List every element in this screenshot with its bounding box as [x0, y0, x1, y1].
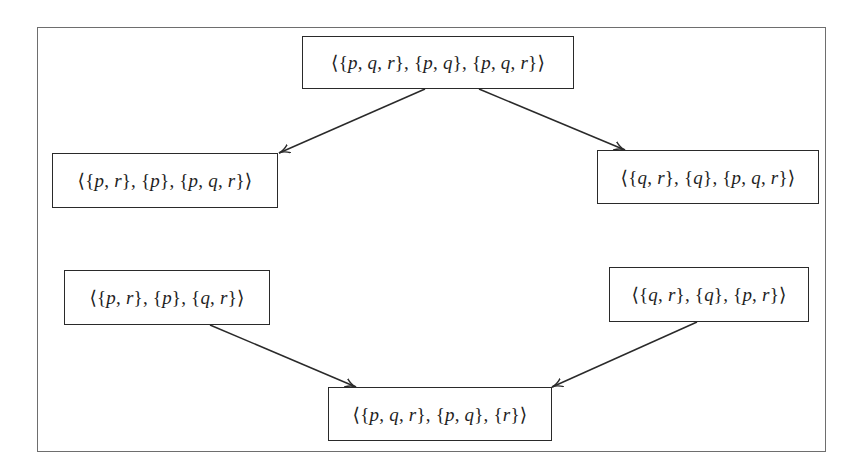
- node-label: ⟨{p, q, r}, {p, q}, {r}⟩: [353, 403, 528, 426]
- node-label: ⟨{p, q, r}, {p, q}, {p, q, r}⟩: [331, 51, 545, 74]
- node-label: ⟨{q, r}, {q}, {p, q, r}⟩: [621, 166, 796, 189]
- node-bottom: ⟨{p, q, r}, {p, q}, {r}⟩: [328, 387, 552, 441]
- node-top: ⟨{p, q, r}, {p, q}, {p, q, r}⟩: [302, 36, 574, 89]
- node-mid-right: ⟨{q, r}, {q}, {p, q, r}⟩: [597, 150, 819, 204]
- node-label: ⟨{q, r}, {q}, {p, r}⟩: [631, 283, 786, 306]
- node-label: ⟨{p, r}, {p}, {q, r}⟩: [89, 286, 244, 309]
- node-low-left: ⟨{p, r}, {p}, {q, r}⟩: [64, 270, 270, 325]
- node-mid-left: ⟨{p, r}, {p}, {p, q, r}⟩: [52, 153, 278, 208]
- node-label: ⟨{p, r}, {p}, {p, q, r}⟩: [78, 169, 253, 192]
- node-low-right: ⟨{q, r}, {q}, {p, r}⟩: [609, 267, 809, 322]
